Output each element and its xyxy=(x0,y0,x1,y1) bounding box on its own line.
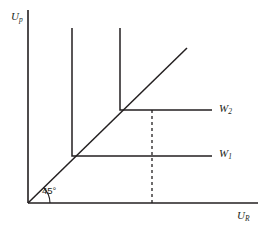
angle-label: 45° xyxy=(42,186,56,196)
curve-label-w2-subscript: 2 xyxy=(228,107,232,116)
x-axis-label-base: U xyxy=(237,209,245,221)
y-axis-label-subscript: p xyxy=(19,15,23,24)
y-axis-label: Up xyxy=(11,11,23,22)
diagonal-45-ray xyxy=(28,48,187,203)
curve-label-w1-base: W xyxy=(219,147,228,159)
y-axis-label-base: U xyxy=(11,10,19,22)
curve-label-w1: W1 xyxy=(219,148,232,159)
curve-label-w2-base: W xyxy=(219,102,228,114)
x-axis-label: UR xyxy=(237,210,250,221)
curve-label-w2: W2 xyxy=(219,103,232,114)
curve-label-w1-subscript: 1 xyxy=(228,152,232,161)
x-axis-label-subscript: R xyxy=(245,214,250,223)
figure-container: Up UR W2 W1 45° xyxy=(0,0,261,228)
figure-canvas xyxy=(0,0,261,228)
